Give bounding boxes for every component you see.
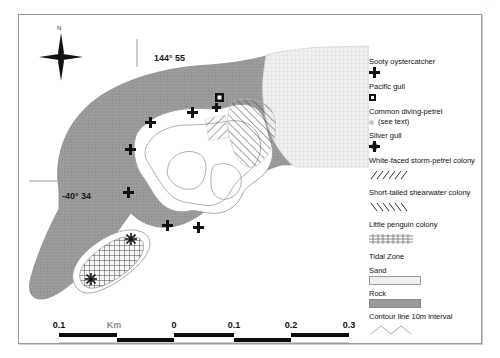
compass-star-icon [35,25,87,87]
scale-segment [117,338,174,342]
scale-bar-labels: 0.1 Km 0 0.1 0.2 0.3 [59,320,349,332]
figure-frame: N 144° 55 -40° 34 Sooty oystercatcher Pa… [18,14,482,344]
forward-hatch-icon [369,170,413,180]
legend-item-contour-line[interactable]: Contour line 10m interval [369,312,500,340]
sand-flat [262,46,369,167]
scale-bar-segments [59,333,349,344]
legend-item-pacific-gull[interactable]: Pacific gull [369,82,500,103]
sand-swatch-icon [369,276,421,285]
legend-label: Short-tailed shearwater colony [369,188,500,198]
legend-item-sand[interactable]: Sand [369,266,500,285]
legend-note: (see text) [378,117,409,127]
contour-line-icon [369,324,421,336]
cross-icon [369,67,380,78]
legend-item-silver-gull[interactable]: Silver gull [369,131,500,152]
rock-swatch-icon [369,299,421,308]
legend-item-sooty-oystercatcher[interactable]: Sooty oystercatcher [369,57,500,78]
marker-silver-gull [85,273,97,285]
map-canvas[interactable]: N 144° 55 -40° 34 [19,15,369,315]
filled-square-icon [369,94,376,101]
figure-page: · · · [0,0,500,358]
legend-label: Silver gull [369,131,500,141]
marker-pacific-gull [215,93,224,102]
star-icon [369,141,380,152]
scale-segment [291,333,349,337]
legend-label: Tidal Zone [369,252,500,262]
scale-tick-label: 0 [171,320,176,330]
legend-label: Contour line 10m interval [369,312,500,322]
legend-item-rock[interactable]: Rock [369,289,500,308]
scale-tick-label: 0.1 [53,320,66,330]
legend-label: Little penguin colony [369,220,500,230]
legend-item-tidal-zone[interactable]: Tidal Zone [369,252,500,262]
longitude-label: 144° 55 [154,53,185,63]
legend-label: White-faced storm-petrel colony [369,156,500,166]
scale-tick-label: 0.2 [285,320,298,330]
scale-tick-label: 0.3 [343,320,356,330]
legend-item-short-tailed-shearwater-colony[interactable]: Short-tailed shearwater colony [369,188,500,216]
scan-artifact-text: · · · [0,0,500,12]
legend-label: Sand [369,266,500,276]
scale-tick-label: 0.1 [228,320,241,330]
scale-unit-label: Km [107,320,122,330]
white-faced-storm-petrel-colony [205,115,229,141]
legend-item-white-faced-storm-petrel-colony[interactable]: White-faced storm-petrel colony [369,156,500,184]
legend-label: Pacific gull [369,82,500,92]
scale-segment [59,333,117,337]
scale-segment [234,338,291,342]
marker-sooty-oystercatcher [193,222,204,233]
cross-hatch-icon [369,234,413,244]
scale-bar: 0.1 Km 0 0.1 0.2 0.3 [59,320,349,346]
legend-item-common-diving-petrel[interactable]: Common diving-petrel (see text) [369,107,500,127]
scale-bar-baseline [59,342,349,343]
north-arrow: N [35,25,87,87]
map-legend: Sooty oystercatcher Pacific gull Common … [369,57,500,344]
legend-label: Sooty oystercatcher [369,57,500,67]
legend-label: Common diving-petrel [369,107,500,117]
north-arrow-label: N [57,25,61,31]
back-hatch-icon [369,202,413,212]
legend-item-little-penguin-colony[interactable]: Little penguin colony [369,220,500,248]
marker-silver-gull [125,233,137,245]
scale-segment [174,333,234,337]
dot-icon [369,120,374,125]
latitude-label: -40° 34 [62,191,91,201]
legend-label: Rock [369,289,500,299]
